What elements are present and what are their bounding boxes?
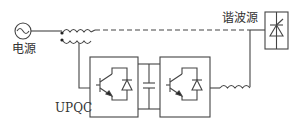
dc-capacitor-icon [138, 64, 160, 109]
harmonic-load-icon [265, 12, 288, 49]
harmonic-source-label: 谐波源 [222, 12, 258, 24]
output-inductor-icon [210, 86, 250, 89]
source-label: 电源 [12, 43, 36, 55]
ac-source-icon [15, 23, 31, 39]
converter-left-icon [90, 57, 138, 117]
converter-right-icon [160, 57, 210, 117]
series-transformer-icon [60, 30, 95, 44]
upqc-label: UPQC [55, 102, 92, 114]
transformer-secondary-lead [79, 43, 90, 88]
circuit-diagram: 电源 谐波源 UPQC [0, 0, 303, 126]
